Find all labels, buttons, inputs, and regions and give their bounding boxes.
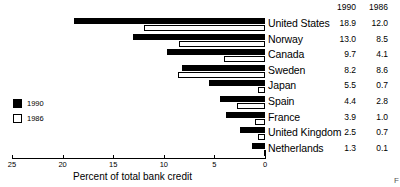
x-axis-tick: [12, 155, 13, 159]
x-axis-line: [12, 158, 265, 159]
chart-row: United Kingdom2.50.7: [0, 126, 400, 141]
x-axis-tick: [113, 155, 114, 159]
bar-1990: [133, 34, 265, 40]
x-axis-tick: [164, 155, 165, 159]
bar-1986: [144, 25, 265, 31]
value-1986: 8.5: [362, 32, 388, 47]
bar-1986: [258, 87, 265, 93]
value-1990: 13.0: [330, 32, 356, 47]
value-1990: 9.7: [330, 47, 356, 62]
value-1986: 0.7: [362, 125, 388, 140]
x-axis-tick: [265, 155, 266, 159]
value-1986: 4.1: [362, 47, 388, 62]
bar-1986: [255, 119, 265, 125]
chart-row: Japan5.50.7: [0, 79, 400, 94]
bar-group: [0, 17, 265, 32]
category-label: France: [268, 110, 300, 125]
bar-group: [0, 64, 265, 79]
value-1990: 5.5: [330, 78, 356, 93]
category-label: Netherlands: [268, 141, 324, 156]
bar-1990: [209, 80, 265, 86]
bar-1986: [237, 103, 265, 109]
value-1986: 2.8: [362, 94, 388, 109]
category-label: Norway: [268, 32, 303, 47]
x-axis-tick-label: 5: [204, 160, 224, 169]
value-1986: 12.0: [362, 16, 388, 31]
x-axis-tick: [214, 155, 215, 159]
bar-group: [0, 126, 265, 141]
value-1986: 0.7: [362, 78, 388, 93]
bar-group: [0, 48, 265, 63]
x-axis-tick-label: 10: [154, 160, 174, 169]
corner-mark: F: [394, 176, 399, 185]
x-axis-tick-label: 25: [2, 160, 22, 169]
chart-row: Sweden8.28.6: [0, 64, 400, 79]
bar-1990: [226, 112, 265, 118]
legend-swatch-filled: [13, 99, 22, 108]
bar-group: [0, 33, 265, 48]
bar-1990: [167, 49, 265, 55]
legend-label: 1990: [27, 98, 44, 110]
chart-row: France3.91.0: [0, 111, 400, 126]
column-header-1986: 1986: [362, 2, 388, 13]
x-axis-title: Percent of total bank credit: [0, 170, 265, 183]
bar-1990: [240, 127, 265, 133]
x-axis-tick-label: 15: [103, 160, 123, 169]
plot-area: 19901986United States18.912.0Norway13.08…: [0, 0, 400, 187]
chart-row: Norway13.08.5: [0, 33, 400, 48]
bar-1990: [252, 143, 265, 149]
legend-label: 1986: [27, 113, 44, 125]
category-label: Japan: [268, 78, 296, 93]
chart-row: Canada9.74.1: [0, 48, 400, 63]
bar-1990: [74, 18, 265, 24]
bar-1986: [224, 56, 265, 62]
bar-1990: [220, 96, 265, 102]
value-1990: 4.4: [330, 94, 356, 109]
value-1986: 0.1: [362, 141, 388, 156]
bar-group: [0, 79, 265, 94]
category-label: Canada: [268, 47, 304, 62]
value-1990: 8.2: [330, 63, 356, 78]
bar-group: [0, 142, 265, 157]
value-1990: 2.5: [330, 125, 356, 140]
value-1990: 1.3: [330, 141, 356, 156]
chart-row: Netherlands1.30.1: [0, 142, 400, 157]
category-label: United States: [268, 16, 330, 31]
x-axis-tick-label: 20: [53, 160, 73, 169]
bar-1990: [182, 65, 265, 71]
bar-1986: [258, 134, 265, 140]
x-axis-tick-label: 0: [255, 160, 275, 169]
x-axis-tick: [63, 155, 64, 159]
bar-chart-figure: 19901986United States18.912.0Norway13.08…: [0, 0, 400, 187]
bar-1986: [179, 41, 265, 47]
chart-row: Spain4.42.8: [0, 95, 400, 110]
category-label: Spain: [268, 94, 294, 109]
category-label: Sweden: [268, 63, 305, 78]
value-1990: 3.9: [330, 110, 356, 125]
chart-row: United States18.912.0: [0, 17, 400, 32]
column-header-1990: 1990: [330, 2, 356, 13]
legend-swatch-hollow: [13, 114, 22, 123]
bar-1986: [178, 72, 265, 78]
value-1990: 18.9: [330, 16, 356, 31]
value-1986: 1.0: [362, 110, 388, 125]
value-1986: 8.6: [362, 63, 388, 78]
